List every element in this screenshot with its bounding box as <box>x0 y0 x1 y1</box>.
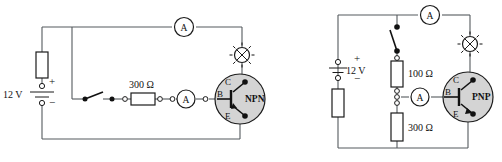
upper-divider-resistor-label: 100 Ω <box>408 68 433 79</box>
battery-plus-terminal <box>39 83 44 88</box>
pnp-pin-base-label: B <box>445 87 451 97</box>
battery-minus-sign: − <box>49 96 55 108</box>
lower-divider-resistor-body <box>391 113 403 141</box>
npn-pin-emitter-label: E <box>225 111 231 121</box>
npn-emitter-terminal <box>242 113 248 119</box>
battery2-plus-sign: + <box>354 52 360 64</box>
pnp-base-ammeter: A <box>411 88 429 106</box>
switch2-top-terminal <box>394 24 400 30</box>
npn-collector-resistor <box>36 52 48 78</box>
base-ammeter-label: A <box>183 95 190 105</box>
collector-resistor-body <box>36 52 48 78</box>
base-ammeter2-label: A <box>417 93 424 103</box>
r100-bottom-terminal <box>395 89 400 94</box>
battery-plus-sign: + <box>49 75 55 87</box>
base-resistor-left-terminal <box>123 97 128 102</box>
npn-transistor: C B E NPN <box>215 74 265 124</box>
switch-contact-terminal <box>110 97 115 102</box>
battery-minus-terminal <box>39 100 44 105</box>
divider-node-terminal <box>395 95 400 100</box>
pnp-pin-collector-label: C <box>453 75 459 85</box>
pnp-collector-terminal <box>470 77 476 83</box>
pnp-circuit: + − 12 V 100 Ω 300 Ω <box>329 6 493 149</box>
pnp-type-label: PNP <box>472 92 491 102</box>
lower-divider-resistor-label: 300 Ω <box>408 122 433 133</box>
npn-collector-ammeter: A <box>175 18 194 37</box>
pnp-emitter-terminal <box>470 111 476 117</box>
pnp-battery: + − 12 V <box>329 52 366 84</box>
switch2-pivot-terminal <box>394 48 400 54</box>
pnp-collector-ammeter: A <box>421 6 440 25</box>
base-resistor-right-terminal <box>158 97 163 102</box>
npn-circuit: + − 12 V 300 Ω A A <box>3 18 265 140</box>
pnp-pin-emitter-label: E <box>453 109 459 119</box>
pnp-series-resistor <box>332 89 344 117</box>
pnp-lower-divider-resistor: 300 Ω <box>391 113 433 141</box>
base-ammeter-left-terminal <box>170 97 175 102</box>
switch2-lower-terminal <box>395 56 400 61</box>
npn-battery: + − 12 V <box>3 75 55 108</box>
circuit-figure: + − 12 V 300 Ω A A <box>0 0 502 162</box>
pnp-divider-node <box>395 95 400 106</box>
collector-ammeter2-label: A <box>427 11 434 21</box>
series-resistor-body <box>332 89 344 117</box>
battery2-plus-terminal <box>335 59 340 64</box>
collector-ammeter-label: A <box>181 23 188 33</box>
pnp-transistor: C B E PNP <box>443 72 493 122</box>
battery2-minus-terminal <box>335 75 340 80</box>
switch2-blade[interactable] <box>390 30 397 51</box>
npn-base-resistor: 300 Ω <box>123 79 163 105</box>
switch-blade[interactable] <box>85 92 103 99</box>
base-resistor-label: 300 Ω <box>129 79 154 90</box>
npn-pin-collector-label: C <box>225 77 231 87</box>
upper-divider-resistor-body <box>391 61 403 87</box>
pnp-upper-divider-resistor: 100 Ω <box>391 61 433 93</box>
base-ammeter-right-terminal <box>203 97 208 102</box>
r300-top-terminal <box>395 101 400 106</box>
npn-collector-terminal <box>242 79 248 85</box>
battery-voltage-label: 12 V <box>3 89 23 100</box>
battery2-voltage-label: 12 V <box>346 65 366 76</box>
npn-base-switch[interactable] <box>83 92 115 102</box>
npn-pin-base-label: B <box>217 89 223 99</box>
base-resistor-body <box>131 93 155 105</box>
npn-type-label: NPN <box>245 94 265 104</box>
pnp-supply-switch[interactable] <box>390 24 400 60</box>
